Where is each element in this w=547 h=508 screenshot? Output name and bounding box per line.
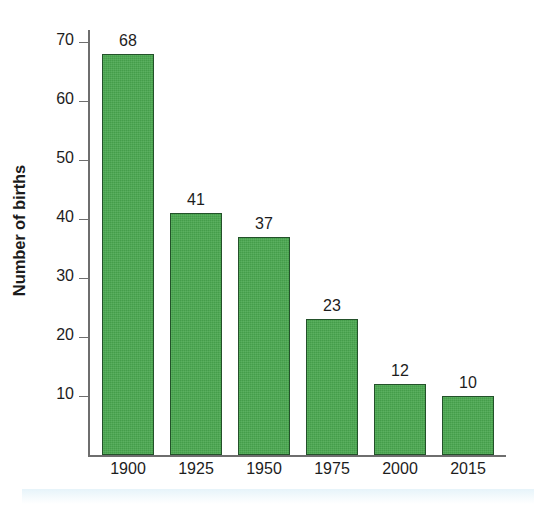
y-axis-tick-mark [79,337,88,339]
y-axis-tick-mark [79,101,88,103]
y-axis-tick-mark [79,160,88,162]
x-axis-tick-label: 1975 [314,460,350,478]
bar-slot: 411925 [162,22,230,456]
y-axis-tick-label: 60 [56,90,74,108]
bar-slot: 681900 [94,22,162,456]
y-axis-tick-label: 70 [56,31,74,49]
y-axis-tick-label: 10 [56,385,74,403]
bar-slot: 102015 [434,22,502,456]
y-axis-tick-mark [79,219,88,221]
y-axis-tick-mark [79,396,88,398]
x-axis-tick-label: 1950 [246,460,282,478]
x-axis-tick-label: 1900 [110,460,146,478]
bar-chart-figure: Number of births 10203040506070 68190041… [0,0,547,508]
bar-value-label: 10 [459,374,477,392]
x-axis-tick-label: 2015 [450,460,486,478]
y-axis-tick-label: 20 [56,326,74,344]
y-axis-tick-label: 50 [56,149,74,167]
y-axis-tick-mark [79,278,88,280]
scan-tint-band [22,489,534,504]
bar-value-label: 12 [391,362,409,380]
bar[interactable]: 68 [102,54,154,455]
bar-value-label: 41 [187,191,205,209]
bar-slot: 231975 [298,22,366,456]
y-axis-tick-label: 40 [56,208,74,226]
x-axis-tick-label: 2000 [382,460,418,478]
bar-value-label: 23 [323,297,341,315]
bar-value-label: 68 [119,32,137,50]
bar-slot: 371950 [230,22,298,456]
y-axis-tick-label: 30 [56,267,74,285]
bar[interactable]: 23 [306,319,358,455]
bar-value-label: 37 [255,215,273,233]
y-axis-title-text: Number of births [11,164,30,295]
y-axis-line [88,30,90,456]
x-axis-tick-label: 1925 [178,460,214,478]
bar-slot: 122000 [366,22,434,456]
bar[interactable]: 41 [170,213,222,455]
bar[interactable]: 37 [238,237,290,455]
y-axis-title: Number of births [0,0,40,460]
bar[interactable]: 12 [374,384,426,455]
y-axis-tick-mark [79,42,88,44]
plot-area: 10203040506070 6819004119253719502319751… [88,22,506,456]
bar[interactable]: 10 [442,396,494,455]
